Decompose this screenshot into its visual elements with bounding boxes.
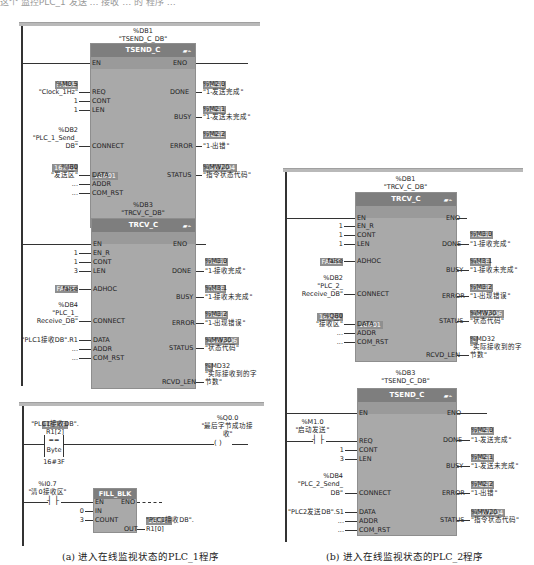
- wire: [286, 441, 313, 442]
- adhoc-arg[interactable]: false: [40, 285, 78, 293]
- coil-symbol-2[interactable]: 收": [195, 430, 260, 438]
- pin-error: ERROR: [172, 319, 195, 327]
- addr-arg[interactable]: ...: [325, 329, 343, 337]
- wire: [79, 253, 91, 254]
- coil-symbol[interactable]: "最后字节成功接: [190, 422, 265, 430]
- contact-symbol[interactable]: "清0接收区": [20, 488, 75, 496]
- pin-en: EN: [93, 240, 102, 248]
- pin-data: DATA: [359, 508, 376, 516]
- done-symbol[interactable]: "1-接收完成": [470, 240, 510, 248]
- out-symbol[interactable]: "PLC1接收DB".: [146, 516, 194, 524]
- error-symbol[interactable]: "1-出现错误": [470, 292, 510, 300]
- pin-data: DATA: [357, 320, 374, 328]
- error-symbol[interactable]: "1-出错": [203, 142, 229, 150]
- status-symbol[interactable]: "指令状态代码": [471, 516, 519, 524]
- pin-eno: ENO: [173, 59, 187, 67]
- data-symbol[interactable]: "发送区": [10, 171, 78, 179]
- block-header-band: [358, 402, 456, 414]
- rcvd-len-symbol-2[interactable]: 节数": [470, 351, 487, 359]
- rcvd-len-symbol[interactable]: "实际接收到的字: [205, 370, 257, 378]
- wire: [457, 440, 470, 441]
- cont-arg[interactable]: 1: [60, 97, 78, 105]
- rcvd-len-symbol-2[interactable]: 节数": [205, 378, 222, 386]
- rung-line: [22, 63, 90, 64]
- pin-req: REQ: [359, 437, 373, 445]
- busy-symbol[interactable]: "1-发送未完成": [471, 462, 518, 470]
- status-symbol[interactable]: "指令状态代码": [203, 171, 251, 179]
- connect-symbol[interactable]: "PLC_1_Send_: [10, 134, 78, 142]
- wire: [345, 521, 357, 522]
- done-symbol[interactable]: "1-接收完成": [205, 267, 245, 275]
- error-symbol[interactable]: "1-出现错误": [205, 319, 245, 327]
- cont-arg[interactable]: 1: [60, 258, 78, 266]
- status-symbol[interactable]: "状态代码": [470, 317, 504, 325]
- com-rst-arg[interactable]: ...: [325, 338, 343, 346]
- cont-arg[interactable]: 1: [325, 231, 343, 239]
- len-arg[interactable]: 3: [60, 267, 78, 275]
- busy-addr: %M2.1: [471, 453, 493, 461]
- no-contact-icon[interactable]: ┤ ├: [312, 435, 324, 444]
- connect-symbol-2[interactable]: Receive_DB": [275, 290, 343, 298]
- wire: [79, 289, 91, 290]
- addr-arg[interactable]: ...: [60, 180, 78, 188]
- data-addr: %IB0: [20, 163, 78, 171]
- network-bar-1[interactable]: [283, 168, 523, 172]
- len-arg[interactable]: 1: [60, 106, 78, 114]
- wire: [457, 270, 469, 271]
- busy-symbol[interactable]: "1-发送未完成": [203, 113, 250, 121]
- compare-operand2[interactable]: 16#3F: [34, 458, 74, 466]
- wire: [232, 444, 248, 445]
- connect-symbol[interactable]: "PLC_2_Send_: [275, 480, 343, 488]
- req-symbol[interactable]: "Clock_1Hz": [10, 88, 78, 96]
- pin-addr: ADDR: [92, 180, 111, 188]
- req-addr: %M1.0: [285, 418, 340, 426]
- network-bar-1[interactable]: [19, 22, 260, 26]
- data-symbol[interactable]: "接收区": [285, 320, 343, 328]
- out-symbol-2[interactable]: R1[0]: [146, 525, 164, 533]
- in-arg[interactable]: 0: [74, 507, 84, 515]
- network-bar-2[interactable]: [19, 402, 264, 406]
- count-arg[interactable]: 3: [74, 516, 84, 524]
- connect-symbol[interactable]: "PLC_1_: [10, 309, 78, 317]
- status-symbol[interactable]: "状态代码": [205, 344, 239, 352]
- cont-arg[interactable]: 1: [326, 446, 344, 454]
- addr-arg[interactable]: ...: [60, 345, 78, 353]
- connect-symbol-2[interactable]: DB": [10, 142, 78, 150]
- req-symbol[interactable]: "启动发送": [285, 426, 340, 434]
- com-rst-arg[interactable]: ...: [326, 526, 344, 534]
- done-symbol[interactable]: "1-发送完成": [203, 88, 243, 96]
- error-symbol[interactable]: "1-出错": [471, 489, 497, 497]
- connect-symbol-2[interactable]: Receive_DB": [10, 317, 78, 325]
- addr-arg[interactable]: ...: [326, 517, 344, 525]
- data-arg[interactable]: "PLC2发送DB".S1: [278, 508, 344, 516]
- pin-com-rst: COM_RST: [357, 338, 388, 346]
- rung-line: [286, 413, 357, 414]
- data-arg[interactable]: "PLC1接收DB".R1: [5, 336, 78, 344]
- connect-symbol-2[interactable]: DB": [285, 489, 343, 497]
- no-contact-icon[interactable]: ┤ ├: [47, 496, 59, 505]
- pin-connect: CONNECT: [93, 317, 125, 325]
- coil-icon[interactable]: ( ): [214, 439, 222, 447]
- pin-error: ERROR: [170, 142, 193, 150]
- com-rst-arg[interactable]: ...: [60, 354, 78, 362]
- db-name: "TRCV_C_DB": [353, 183, 458, 191]
- db-addr: %DB3: [89, 201, 197, 209]
- block-instance-icon: ▰⌁: [444, 193, 452, 206]
- len-arg[interactable]: 3: [326, 455, 344, 463]
- adhoc-arg[interactable]: false: [305, 257, 343, 265]
- en-r-arg[interactable]: 1: [325, 222, 343, 230]
- done-symbol[interactable]: "1-发送完成": [471, 436, 511, 444]
- wire: [79, 271, 91, 272]
- connect-symbol[interactable]: "PLC_2_: [285, 282, 343, 290]
- com-rst-arg[interactable]: ...: [60, 189, 78, 197]
- busy-symbol[interactable]: "1-接收未完成": [470, 266, 517, 274]
- en-r-arg[interactable]: 1: [60, 249, 78, 257]
- pin-req: REQ: [92, 88, 106, 96]
- compare-operand1[interactable]: "PLC1接收DB".: [20, 420, 90, 428]
- rcvd-len-symbol[interactable]: "实际接收到的字: [470, 343, 522, 351]
- busy-symbol[interactable]: "1-接收未完成": [205, 293, 252, 301]
- len-arg[interactable]: 1: [325, 240, 343, 248]
- pin-count: COUNT: [95, 516, 118, 524]
- compare-contact[interactable]: == Byte: [44, 435, 64, 457]
- pin-eno: ENO: [173, 240, 187, 248]
